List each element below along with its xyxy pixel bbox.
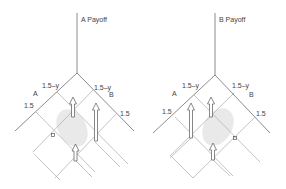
axis-label-b: B (249, 91, 254, 98)
grid-line (213, 160, 230, 176)
grid-line (170, 155, 193, 178)
tick-label-left-inner: 1.5–y (182, 82, 200, 90)
grid-line (95, 142, 120, 167)
axis-label-a: A (172, 90, 177, 97)
grid-line (34, 154, 60, 180)
tick-label-left-outer: 1.5 (24, 102, 34, 109)
up-arrow-icon (210, 143, 217, 160)
tick-label-right-inner: 1.5–y (232, 82, 250, 90)
up-arrow-icon (93, 103, 100, 141)
tick-label-left-inner: 1.5–y (42, 82, 60, 90)
axis-label-a: A (33, 90, 38, 97)
grid-line (76, 161, 92, 177)
shaded-region (196, 103, 240, 152)
diagram-title: B Payoff (219, 16, 245, 24)
axis-label-b: B (109, 91, 114, 98)
tick-label-left-outer: 1.5 (162, 108, 172, 115)
tick-label-right-outer: 1.5 (256, 110, 266, 117)
payoff-diagrams: A Payoff A 1.5–y 1.5 1.5–y B 1.5 B Payof… (0, 0, 286, 189)
grid-line (170, 138, 191, 158)
diagram-title: A Payoff (81, 16, 107, 24)
equilibrium-marker-icon (52, 134, 55, 137)
tick-label-right-outer: 1.5 (120, 110, 130, 117)
axis-b (77, 73, 134, 131)
diagram-a-payoff: A Payoff A 1.5–y 1.5 1.5–y B 1.5 (15, 13, 134, 180)
diagram-b-payoff: B Payoff A 1.5–y 1.5 1.5–y B 1.5 (153, 13, 270, 178)
